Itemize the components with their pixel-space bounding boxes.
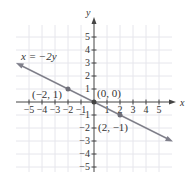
y-axis-arrow-icon bbox=[92, 17, 97, 24]
point-origin bbox=[92, 100, 97, 105]
x-axis-arrow-icon bbox=[169, 100, 176, 105]
point-label-2-neg1: (2, −1) bbox=[98, 121, 128, 134]
y-tick-label: 5 bbox=[85, 31, 90, 42]
x-tick-label: −2 bbox=[63, 104, 74, 115]
y-tick-label: −2 bbox=[79, 122, 90, 133]
x-axis-label: x bbox=[179, 97, 185, 108]
x-tick-label: 3 bbox=[131, 104, 136, 115]
y-tick-label: 2 bbox=[85, 70, 90, 81]
y-tick-label: 4 bbox=[85, 44, 90, 55]
point-2-neg1 bbox=[118, 113, 123, 118]
x-tick-label: −4 bbox=[37, 104, 48, 115]
coordinate-plane: −5 −4 −3 −2 −1 1 2 3 4 5 5 4 3 2 1 −1 −2… bbox=[0, 0, 188, 191]
y-tick-label: −3 bbox=[79, 135, 90, 146]
y-axis bbox=[92, 17, 97, 172]
y-tick-label: 3 bbox=[85, 57, 90, 68]
y-tick-label: −1 bbox=[79, 109, 90, 120]
y-tick-label: −5 bbox=[79, 161, 90, 172]
y-axis-label: y bbox=[85, 7, 91, 18]
point-neg2-1 bbox=[66, 87, 71, 92]
equation-label: x = −2y bbox=[20, 50, 57, 62]
x-tick-label: 4 bbox=[144, 104, 149, 115]
y-tick-label: 1 bbox=[85, 83, 90, 94]
x-tick-label: −5 bbox=[24, 104, 35, 115]
x-tick-labels: −5 −4 −3 −2 −1 1 2 3 4 5 bbox=[24, 104, 162, 115]
x-tick-label: 5 bbox=[157, 104, 162, 115]
line-arrow-right-icon bbox=[165, 136, 173, 142]
y-tick-label: −4 bbox=[79, 148, 90, 159]
point-label-origin: (0, 0) bbox=[97, 87, 121, 100]
point-label-neg2-1: (−2, 1) bbox=[32, 88, 62, 101]
x-tick-label: −3 bbox=[50, 104, 61, 115]
line-arrow-left-icon bbox=[16, 63, 24, 69]
